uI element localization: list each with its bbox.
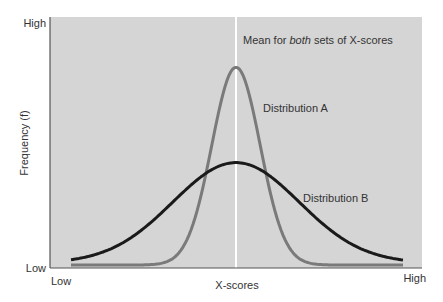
y-axis-label: Frequency (f) — [18, 110, 30, 175]
mean-annotation-emphasis: both — [289, 34, 310, 46]
distribution-b-label: Distribution B — [303, 192, 368, 204]
x-axis-label: X-scores — [215, 279, 259, 291]
chart: High Low Low High X-scores Frequency (f)… — [0, 0, 443, 302]
distribution-a-label: Distribution A — [263, 102, 328, 114]
x-tick-high: High — [403, 272, 426, 284]
x-tick-low: Low — [51, 275, 71, 287]
mean-annotation-prefix: Mean for — [243, 34, 289, 46]
mean-annotation: Mean for both sets of X-scores — [243, 34, 393, 46]
y-tick-high: High — [23, 17, 46, 29]
y-tick-low: Low — [26, 262, 46, 274]
mean-annotation-suffix: sets of X-scores — [311, 34, 393, 46]
